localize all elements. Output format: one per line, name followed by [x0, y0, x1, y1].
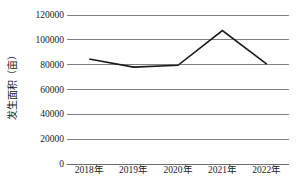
y-axis-tick-label: 0	[16, 159, 64, 169]
y-axis-tick-label: 40000	[16, 109, 64, 119]
x-axis-tick-labels: 2018年2019年2020年2021年2022年	[67, 164, 289, 182]
plot-area	[67, 0, 289, 186]
y-axis-tick-label: 60000	[16, 85, 64, 95]
y-axis-tick-labels: 020000400006000080000100000120000	[16, 0, 64, 186]
y-axis-tick-label: 120000	[16, 10, 64, 20]
y-axis-tick-label: 100000	[16, 35, 64, 45]
y-axis-tick-label: 80000	[16, 60, 64, 70]
line-chart: 发生面积（亩） 02000040000600008000010000012000…	[0, 0, 298, 186]
series-line-occurrence-area	[89, 31, 267, 68]
x-axis-tick-label: 2022年	[240, 164, 294, 176]
y-axis-tick-label: 20000	[16, 134, 64, 144]
series-line-group	[67, 0, 289, 186]
